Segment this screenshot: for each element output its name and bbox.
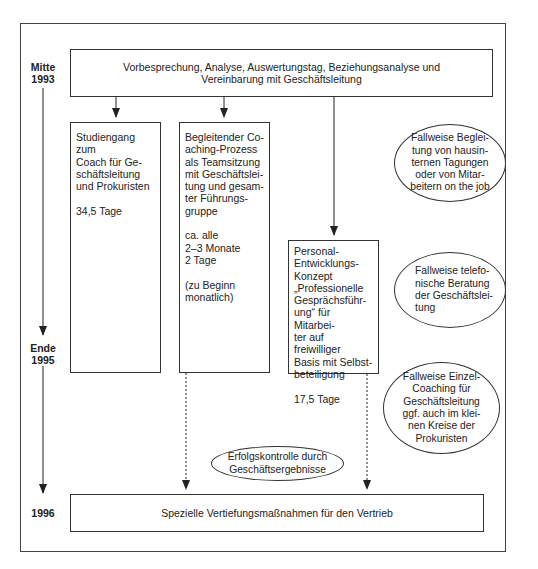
initial-phase-text-line1: Vorbesprechung, Analyse, Auswertungstag,… <box>123 61 440 73</box>
timeline-end-label: 1996 <box>22 507 64 519</box>
initial-phase-text-line2: Vereinbarung mit Geschäftsleitung <box>123 73 440 85</box>
timeline-start-label: Mitte 1993 <box>22 61 64 85</box>
ellipse-inhouse-support: Fallweise Beglei- tung von hausin- terne… <box>394 124 506 202</box>
personnel-development-box: Personal- Entwicklungs- Konzept „Profess… <box>288 240 379 374</box>
sales-measures-box: Spezielle Vertiefungsmaßnahmen für den V… <box>70 494 484 532</box>
ellipse-individual-coaching: Fallweise Einzel- Coaching für Geschäfts… <box>383 362 500 454</box>
sales-measures-text: Spezielle Vertiefungsmaßnahmen für den V… <box>161 507 393 519</box>
initial-phase-box: Vorbesprechung, Analyse, Auswertungstag,… <box>70 49 493 97</box>
coach-study-box: Studiengang zum Coach für Ge- schäftslei… <box>70 122 161 373</box>
ellipse-success-control: Erfolgskontrolle durch Geschäftsergebnis… <box>211 446 344 481</box>
timeline-mid-label: Ende 1995 <box>22 342 64 366</box>
ellipse-phone-consulting: Fallweise telefo- nische Beratung der Ge… <box>394 252 506 328</box>
coaching-process-box: Begleitender Co- aching-Prozess als Team… <box>179 122 270 373</box>
